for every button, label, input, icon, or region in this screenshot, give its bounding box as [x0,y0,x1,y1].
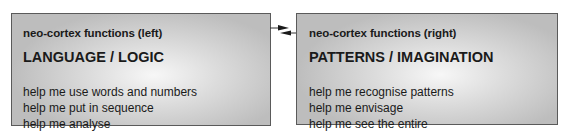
list-item: help me envisage [309,100,557,116]
arrow-left-icon [280,31,296,36]
right-box-title: PATTERNS / IMAGINATION [309,48,557,66]
left-function-box: neo-cortex functions (left) LANGUAGE / L… [11,13,271,126]
right-box-subtitle: neo-cortex functions (right) [309,26,557,40]
list-item: help me see the entire [309,116,557,132]
list-item: help me use words and numbers [23,84,270,100]
list-item: help me put in sequence [23,100,270,116]
right-function-list: help me recognise patterns help me envis… [309,84,557,132]
left-function-list: help me use words and numbers help me pu… [23,84,270,132]
arrow-right-icon [270,25,289,31]
left-box-subtitle: neo-cortex functions (left) [23,26,270,40]
left-box-title: LANGUAGE / LOGIC [23,48,270,66]
list-item: help me analyse [23,116,270,132]
right-function-box: neo-cortex functions (right) PATTERNS / … [296,13,558,125]
list-item: help me recognise patterns [309,84,557,100]
